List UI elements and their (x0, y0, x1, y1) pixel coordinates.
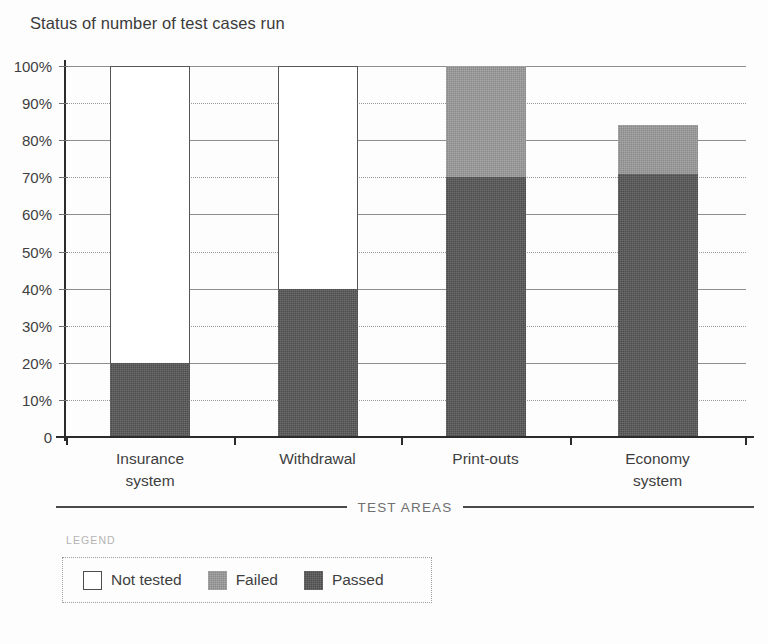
x-axis-title-row: TEST AREAS (56, 497, 754, 517)
y-tick-label: 80% (22, 132, 52, 149)
y-tick-label: 70% (22, 169, 52, 186)
legend-item-nottested[interactable]: Not tested (83, 571, 182, 590)
legend-item-label: Passed (332, 571, 384, 589)
y-tick-label: 30% (22, 317, 52, 334)
chart-title: Status of number of test cases run (30, 14, 285, 33)
x-tick-label-line: Withdrawal (228, 448, 408, 470)
plot-area (66, 66, 746, 437)
legend-item-label: Failed (236, 571, 278, 589)
y-tick-label: 100% (14, 58, 52, 75)
x-tick-label: Economysystem (568, 448, 748, 493)
legend-item-label: Not tested (111, 571, 182, 589)
y-axis-tick (59, 252, 68, 253)
y-axis-tick (59, 289, 68, 290)
y-tick-label: 0 (44, 429, 52, 446)
x-tick-label: Withdrawal (228, 448, 408, 470)
legend: Not testedFailedPassed (62, 557, 432, 603)
bar-segment-passed[interactable] (110, 363, 190, 437)
x-axis-tick (570, 437, 572, 445)
legend-item-passed[interactable]: Passed (304, 571, 384, 590)
bar-withdrawal[interactable] (278, 66, 358, 437)
x-axis-tick (401, 437, 403, 445)
x-tick-label-line: system (568, 470, 748, 492)
y-axis-line (64, 60, 66, 441)
x-tick-label-line: Print-outs (396, 448, 576, 470)
axis-title-rule-left (56, 506, 347, 508)
x-tick-label-line: system (60, 470, 240, 492)
bar-segment-failed[interactable] (618, 125, 698, 173)
legend-swatch-icon (208, 571, 227, 590)
y-tick-label: 90% (22, 95, 52, 112)
y-axis-tick (59, 363, 68, 364)
y-tick-label: 40% (22, 280, 52, 297)
legend-item-failed[interactable]: Failed (208, 571, 278, 590)
legend-swatch-icon (304, 571, 323, 590)
axis-title-rule-right (463, 506, 754, 508)
chart-figure: Status of number of test cases run 010%2… (0, 0, 768, 644)
y-tick-label: 10% (22, 391, 52, 408)
bar-segment-not-tested[interactable] (110, 66, 190, 363)
x-tick-label-line: Economy (568, 448, 748, 470)
y-axis-tick (59, 66, 68, 67)
bar-economy-system[interactable] (618, 66, 698, 437)
x-axis-tick (66, 437, 68, 445)
y-tick-label: 50% (22, 243, 52, 260)
bar-segment-failed[interactable] (446, 66, 526, 177)
bar-segment-not-tested[interactable] (278, 66, 358, 289)
bar-segment-passed[interactable] (618, 174, 698, 437)
x-tick-label: Print-outs (396, 448, 576, 470)
y-axis-tick (59, 326, 68, 327)
y-axis-tick (59, 103, 68, 104)
x-axis-line (56, 436, 754, 438)
y-tick-label: 20% (22, 354, 52, 371)
legend-swatch-icon (83, 571, 102, 590)
bar-segment-passed[interactable] (446, 177, 526, 437)
x-axis-tick (234, 437, 236, 445)
y-axis-tick (59, 400, 68, 401)
x-tick-label-line: Insurance (60, 448, 240, 470)
legend-caption: LEGEND (66, 534, 116, 546)
x-axis-title: TEST AREAS (357, 500, 452, 515)
y-axis-tick (59, 214, 68, 215)
bar-print-outs[interactable] (446, 66, 526, 437)
y-tick-label: 60% (22, 206, 52, 223)
y-axis-tick (59, 140, 68, 141)
x-tick-label: Insurancesystem (60, 448, 240, 493)
bar-segment-passed[interactable] (278, 289, 358, 437)
bar-insurance-system[interactable] (110, 66, 190, 437)
y-axis-labels: 010%20%30%40%50%60%70%80%90%100% (0, 0, 56, 644)
x-axis-tick (745, 437, 747, 445)
y-axis-tick (59, 177, 68, 178)
